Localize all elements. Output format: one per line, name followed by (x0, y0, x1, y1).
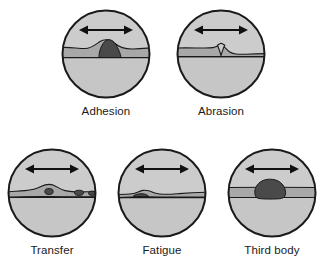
panel-fatigue: Fatigue (117, 148, 207, 257)
lower-body-region (176, 57, 266, 99)
lower-body-region (227, 198, 317, 238)
abrasion-illustration (176, 9, 266, 99)
third-body-illustration (227, 148, 317, 238)
panel-transfer: Transfer (7, 148, 97, 257)
third-body-diagram (227, 148, 317, 238)
fatigue-diagram (117, 148, 207, 238)
panel-label-fatigue: Fatigue (117, 243, 207, 257)
panel-label-abrasion: Abrasion (176, 104, 266, 118)
abrasion-diagram (176, 9, 266, 99)
panel-label-transfer: Transfer (7, 243, 97, 257)
transfer-diagram (7, 148, 97, 238)
panel-adhesion: Adhesion (61, 9, 151, 118)
lower-body-region (61, 58, 151, 99)
panel-abrasion: Abrasion (176, 9, 266, 118)
adhesion-illustration (61, 9, 151, 99)
fatigue-illustration (117, 148, 207, 238)
adhesion-diagram (61, 9, 151, 99)
panel-label-third-body: Third body (227, 243, 317, 257)
transferred-particle-edge (89, 191, 96, 195)
lower-body-region (117, 198, 207, 238)
lower-body-region (7, 198, 97, 238)
transfer-illustration (7, 148, 97, 238)
wear-mechanisms-figure: Adhesion (0, 0, 330, 263)
transferred-particle-right (75, 190, 84, 195)
lower-interface-line (117, 197, 207, 198)
transferred-particle-center (45, 189, 53, 195)
panel-third-body: Third body (227, 148, 317, 257)
panel-label-adhesion: Adhesion (61, 104, 151, 118)
